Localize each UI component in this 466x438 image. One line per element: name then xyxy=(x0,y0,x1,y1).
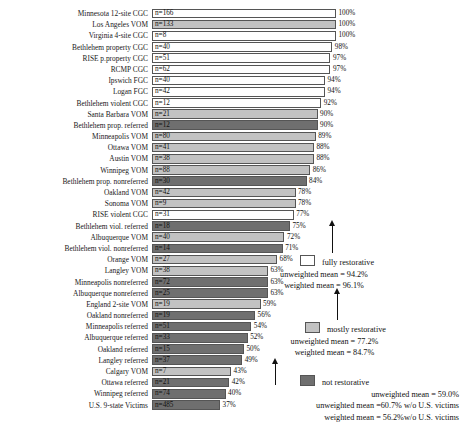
row-label: Minneapolis nonreferred xyxy=(0,277,152,288)
bar-percent-label: 89% xyxy=(316,131,332,142)
row-label: Calgary VOM xyxy=(0,366,152,377)
bar-mostly-restorative xyxy=(152,188,296,198)
bar-percent-label: 100% xyxy=(336,30,355,41)
row-label: Logan FGC xyxy=(0,86,152,97)
bar-full-restorative xyxy=(152,210,294,220)
row-label: Sonoma VOM xyxy=(0,198,152,209)
restorativeness-bar-chart: Minnesota 12-site CGCn=166100%Los Angele… xyxy=(0,0,466,438)
chart-row: Oakland VOMn=4278% xyxy=(0,187,466,198)
bar-mostly-restorative xyxy=(152,165,310,175)
bar-sample-size-label: n=80 xyxy=(155,131,170,142)
row-label: Winnipeg VOM xyxy=(0,165,152,176)
row-label: Minneapolis VOM xyxy=(0,131,152,142)
bar-percent-label: 92% xyxy=(321,98,337,109)
chart-row: RCMP CGCn=6297% xyxy=(0,64,466,75)
row-label: Ottawa VOM xyxy=(0,142,152,153)
bar-sample-size-label: n=42 xyxy=(155,86,170,97)
row-label: England 2-site VOM xyxy=(0,299,152,310)
bar-percent-label: 90% xyxy=(318,120,334,131)
chart-row: Minneapolis VOMn=8089% xyxy=(0,131,466,142)
row-bar-area: n=1956% xyxy=(152,310,466,321)
row-label: Bethlehem viol. referred xyxy=(0,221,152,232)
chart-row: Oakland nonreferredn=1956% xyxy=(0,310,466,321)
legend-weighted-mean-fully-restorative: weighted mean = 96.1% xyxy=(274,281,374,290)
bar-percent-label: 94% xyxy=(325,75,341,86)
bar-full-restorative xyxy=(152,31,336,41)
bar-percent-label: 72% xyxy=(284,232,300,243)
chart-row: RISE violent CGCn=3177% xyxy=(0,209,466,220)
bar-mostly-restorative xyxy=(152,232,284,242)
bar-sample-size-label: n=8 xyxy=(155,30,166,41)
bar-full-restorative xyxy=(152,76,325,86)
bar-sample-size-label: n=166 xyxy=(155,8,173,19)
row-bar-area: n=4098% xyxy=(152,42,466,53)
row-bar-area: n=3084% xyxy=(152,176,466,187)
legend-title-mostly-restorative: mostly restorative xyxy=(327,325,386,334)
legend-arrow-fully-restorative xyxy=(332,225,333,253)
row-label: Albuquerque referred xyxy=(0,332,152,343)
bar-sample-size-label: n=62 xyxy=(155,64,170,75)
chart-row: RISE p.property CGCn=5197% xyxy=(0,53,466,64)
bar-sample-size-label: n=51 xyxy=(155,321,170,332)
bar-percent-label: 100% xyxy=(336,19,355,30)
bar-percent-label: 97% xyxy=(330,53,346,64)
row-bar-area: n=4094% xyxy=(152,75,466,86)
legend-mostly-restorative: mostly restorative unweighted mean = 77.… xyxy=(305,322,386,357)
bar-sample-size-label: n=88 xyxy=(155,165,170,176)
chart-row: Winnipeg VOMn=8886% xyxy=(0,165,466,176)
row-label: RISE violent CGC xyxy=(0,209,152,220)
bar-percent-label: 54% xyxy=(251,321,267,332)
row-label: Bethlehem prop. nonreferred xyxy=(0,176,152,187)
row-bar-area: n=6297% xyxy=(152,64,466,75)
chart-row: Bethlehem prop. referredn=1290% xyxy=(0,120,466,131)
bar-percent-label: 37% xyxy=(220,400,236,411)
chart-row: Santa Barbara VOMn=2190% xyxy=(0,109,466,120)
bar-percent-label: 59% xyxy=(261,299,277,310)
row-label: Bethlehem viol. nonreferred xyxy=(0,243,152,254)
bar-mostly-restorative xyxy=(152,199,296,209)
bar-sample-size-label: n=74 xyxy=(155,388,170,399)
bar-sample-size-label: n=27 xyxy=(155,254,170,265)
row-label: Albuquerque nonreferred xyxy=(0,288,152,299)
legend-fully-restorative: fully restorative unweighted mean = 94.2… xyxy=(300,255,374,290)
row-bar-area: n=166100% xyxy=(152,8,466,19)
chart-row: Langley VOMn=3863% xyxy=(0,265,466,276)
legend-arrow-mostly-restorative xyxy=(337,293,338,320)
bar-sample-size-label: n=485 xyxy=(155,400,173,411)
row-bar-area: n=4278% xyxy=(152,187,466,198)
bar-not-restorative xyxy=(152,244,283,254)
bar-full-restorative xyxy=(152,87,325,97)
row-bar-area: n=4294% xyxy=(152,86,466,97)
row-bar-area: n=978% xyxy=(152,198,466,209)
bar-sample-size-label: n=42 xyxy=(155,187,170,198)
row-bar-area: n=8089% xyxy=(152,131,466,142)
chart-row: Ipswich FGCn=4094% xyxy=(0,75,466,86)
bar-not-restorative xyxy=(152,176,307,186)
row-label: Langley referred xyxy=(0,355,152,366)
bar-sample-size-label: n=33 xyxy=(155,332,170,343)
row-label: RCMP CGC xyxy=(0,64,152,75)
bar-percent-label: 98% xyxy=(332,42,348,53)
row-bar-area: n=133100% xyxy=(152,19,466,30)
bar-sample-size-label: n=38 xyxy=(155,153,170,164)
row-label: Ottawa referred xyxy=(0,377,152,388)
bar-percent-label: 94% xyxy=(325,86,341,97)
bar-sample-size-label: n=7 xyxy=(155,366,166,377)
chart-row: Los Angeles VOMn=133100% xyxy=(0,19,466,30)
chart-row: Virginia 4-site CGCn=8100% xyxy=(0,30,466,41)
bar-percent-label: 71% xyxy=(283,243,299,254)
bar-sample-size-label: n=51 xyxy=(155,53,170,64)
bar-mostly-restorative xyxy=(152,20,336,30)
bar-mostly-restorative xyxy=(152,109,318,119)
bar-not-restorative xyxy=(152,120,318,130)
bar-percent-label: 90% xyxy=(318,109,334,120)
chart-rows: Minnesota 12-site CGCn=166100%Los Angele… xyxy=(0,8,466,411)
bar-percent-label: 43% xyxy=(231,366,247,377)
bar-sample-size-label: n=18 xyxy=(155,221,170,232)
row-label: Bethlehem violent CGC xyxy=(0,98,152,109)
row-label: Minnesota 12-site CGC xyxy=(0,8,152,19)
bar-full-restorative xyxy=(152,98,321,108)
chart-row: Albuquerque referredn=3352% xyxy=(0,332,466,343)
chart-row: Bethlehem violent CGCn=1292% xyxy=(0,98,466,109)
chart-row: Bethlehem viol. referredn=1875% xyxy=(0,221,466,232)
